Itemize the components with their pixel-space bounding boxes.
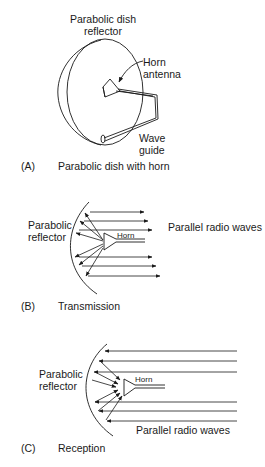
dish-reflector-label: Parabolic dish reflector: [67, 13, 139, 37]
reception-horn-label: Horn: [135, 374, 152, 386]
reception-waves-label: Parallel radio waves: [136, 424, 230, 436]
reception-rays: [92, 351, 237, 421]
panel-b-caption: Transmission: [58, 300, 120, 312]
horn-antenna-label: Horn antenna: [143, 56, 181, 80]
waveguide-label: Wave guide: [139, 132, 165, 156]
transmission-rays: [75, 212, 160, 276]
panel-a-caption: Parabolic dish with horn: [58, 160, 169, 172]
horn-pointer-arrow: [119, 61, 143, 82]
transmission-reflector: [70, 202, 97, 294]
transmission-waves-label: Parallel radio waves: [168, 221, 262, 233]
parabolic-dish: [58, 39, 143, 145]
panel-b-letter: (B): [21, 300, 35, 312]
reception-reflector-label: Parabolic reflector: [39, 368, 83, 392]
transmission-horn-label: Horn: [117, 230, 134, 242]
panel-c-caption: Reception: [58, 442, 105, 454]
panel-c-letter: (C): [21, 442, 36, 454]
transmission-reflector-label: Parabolic reflector: [28, 219, 72, 243]
panel-a-letter: (A): [21, 160, 35, 172]
reception-reflector: [86, 344, 113, 436]
